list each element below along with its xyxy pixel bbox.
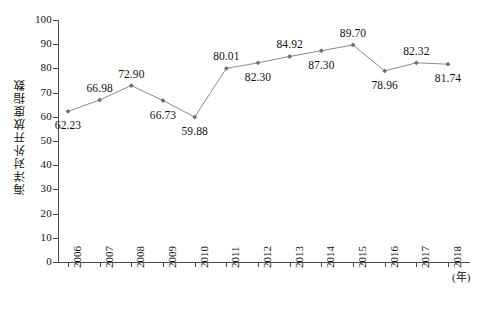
x-axis-unit-label: (年) [452, 272, 470, 283]
data-point-label: 84.92 [276, 38, 302, 50]
data-point-label: 87.30 [308, 59, 334, 71]
data-point-marker [66, 109, 71, 114]
data-point-marker [446, 62, 451, 67]
data-point-label: 66.73 [150, 109, 176, 121]
data-point-marker [414, 60, 419, 65]
data-point-label: 66.98 [86, 82, 112, 94]
data-point-marker [319, 48, 324, 53]
data-point-marker [129, 83, 134, 88]
data-point-label: 80.01 [213, 50, 239, 62]
data-point-label: 89.70 [340, 27, 366, 39]
data-point-marker [256, 60, 261, 65]
data-point-label: 62.23 [55, 119, 81, 131]
data-point-marker [161, 98, 166, 103]
data-point-marker [287, 54, 292, 59]
data-point-label: 82.32 [403, 45, 429, 57]
data-point-label: 82.30 [245, 71, 271, 83]
data-point-label: 59.88 [181, 125, 207, 137]
data-point-label: 72.90 [118, 68, 144, 80]
line-chart: 海洋对外开放度指数 0102030405060708090100 2006200… [0, 0, 493, 312]
data-point-label: 81.74 [435, 72, 461, 84]
data-point-marker [97, 98, 102, 103]
data-point-label: 78.96 [371, 79, 397, 91]
